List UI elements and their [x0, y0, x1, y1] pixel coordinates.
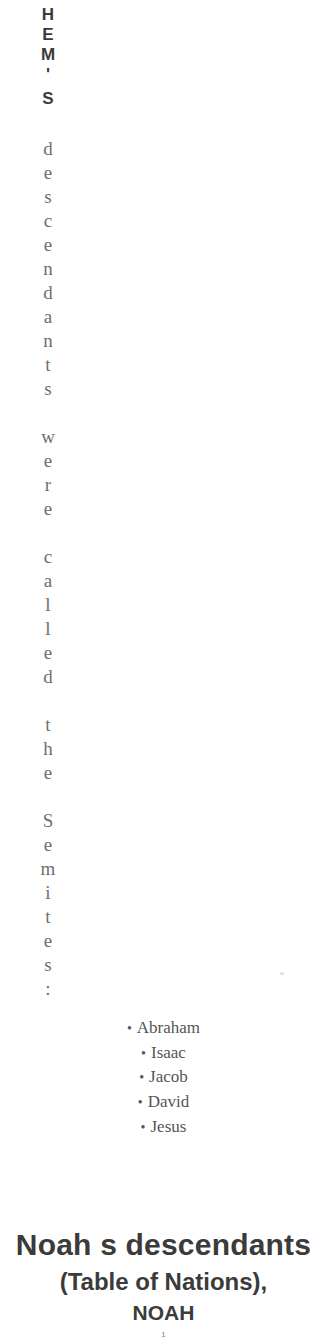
- vertical-char: l: [36, 595, 60, 614]
- vertical-char: d: [36, 139, 60, 158]
- vertical-char: r: [36, 475, 60, 494]
- list-item: •Isaac: [0, 1041, 327, 1066]
- vertical-char: :: [36, 979, 60, 998]
- bullet-icon: •: [141, 1046, 146, 1061]
- bullet-icon: •: [127, 1021, 132, 1036]
- vertical-char: t: [36, 355, 60, 374]
- vertical-char: E: [36, 26, 60, 43]
- vertical-char: e: [36, 763, 60, 782]
- section-subheading: (Table of Nations),: [0, 1268, 327, 1296]
- list-item-text: Abraham: [137, 1018, 200, 1037]
- bullet-icon: •: [139, 1070, 144, 1085]
- vertical-char: w: [36, 427, 60, 446]
- vertical-char: e: [36, 163, 60, 182]
- bullet-icon: •: [138, 1095, 143, 1110]
- vertical-char: m: [36, 859, 60, 878]
- list-item: •David: [0, 1090, 327, 1115]
- bullet-icon: •: [141, 1120, 146, 1135]
- vertical-char: c: [36, 211, 60, 230]
- vertical-char: a: [36, 307, 60, 326]
- page-number: 1: [0, 1330, 327, 1339]
- vertical-char: s: [36, 955, 60, 974]
- vertical-char: e: [36, 235, 60, 254]
- vertical-char: s: [36, 379, 60, 398]
- vertical-char: d: [36, 283, 60, 302]
- vertical-char: t: [36, 907, 60, 926]
- vertical-char: n: [36, 331, 60, 350]
- vertical-char: e: [36, 835, 60, 854]
- list-item: •Jesus: [0, 1115, 327, 1140]
- vertical-char: e: [36, 451, 60, 470]
- vertical-char: d: [36, 667, 60, 686]
- noah-label: NOAH: [0, 1301, 327, 1325]
- vertical-char: ': [36, 66, 60, 83]
- list-item-text: David: [148, 1092, 190, 1111]
- vertical-char: h: [36, 739, 60, 758]
- vertical-char: e: [36, 499, 60, 518]
- list-item: •Jacob: [0, 1065, 327, 1090]
- scan-artifact: [280, 972, 284, 975]
- vertical-char: e: [36, 931, 60, 950]
- vertical-char: n: [36, 259, 60, 278]
- list-item: •Abraham: [0, 1016, 327, 1041]
- vertical-char: c: [36, 547, 60, 566]
- list-item-text: Jacob: [149, 1067, 188, 1086]
- vertical-char: t: [36, 715, 60, 734]
- vertical-char: i: [36, 883, 60, 902]
- list-item-text: Isaac: [151, 1043, 186, 1062]
- vertical-char: l: [36, 619, 60, 638]
- vertical-char: S: [36, 811, 60, 830]
- list-item-text: Jesus: [151, 1117, 187, 1136]
- semite-descendants-list: •Abraham •Isaac •Jacob •David •Jesus: [0, 1016, 327, 1139]
- vertical-char: s: [36, 187, 60, 206]
- vertical-char: M: [36, 46, 60, 63]
- section-heading: Noah s descendants: [0, 1228, 327, 1262]
- vertical-char: S: [36, 90, 60, 107]
- vertical-char: a: [36, 571, 60, 590]
- vertical-char: e: [36, 643, 60, 662]
- vertical-char: H: [36, 6, 60, 23]
